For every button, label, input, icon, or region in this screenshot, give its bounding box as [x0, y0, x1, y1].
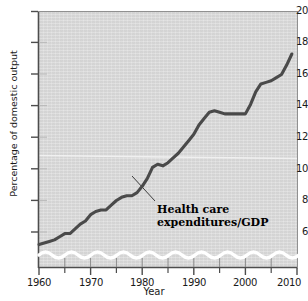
y-tick-label-10: 10	[278, 163, 308, 174]
y-tick-marks	[31, 12, 38, 233]
series-annotation: Health care expenditures/GDP	[157, 203, 287, 229]
series-annotation-line-1: Health care	[157, 203, 287, 216]
y-tick-inner-marks	[39, 42, 47, 232]
y-tick-label-14: 14	[278, 99, 308, 110]
chart-svg	[0, 0, 308, 301]
y-axis-title: Percentage of domestic output	[8, 39, 19, 209]
y-tick-label-18: 18	[278, 36, 308, 47]
chart-figure: 20 18 16 14 12 10 8 6 1960 1970 1980 199…	[0, 0, 308, 301]
series-annotation-line-2: expenditures/GDP	[157, 216, 287, 229]
reference-line-11	[39, 156, 297, 159]
x-minor-tick-marks	[65, 268, 271, 273]
y-tick-label-20: 20	[278, 5, 308, 16]
y-tick-label-16: 16	[278, 68, 308, 79]
annotation-leader-line	[132, 176, 155, 201]
axis-break-wave	[39, 252, 299, 258]
y-tick-label-12: 12	[278, 131, 308, 142]
x-axis-title: Year	[0, 286, 308, 297]
